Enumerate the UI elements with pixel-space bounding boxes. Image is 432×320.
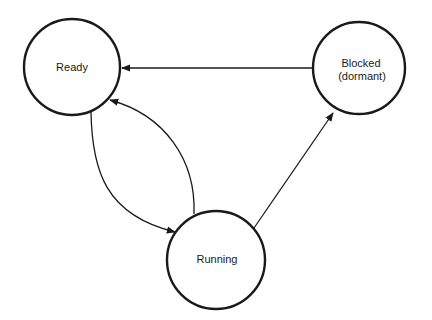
state-ready: Ready (24, 19, 120, 115)
edge-running-to-ready (110, 100, 194, 214)
state-diagram: Ready Blocked (dormant) Running (0, 0, 432, 320)
edge-running-to-blocked (254, 113, 333, 228)
state-blocked: Blocked (dormant) (313, 22, 405, 114)
state-blocked-sublabel: (dormant) (338, 70, 386, 82)
state-running-label: Running (197, 253, 238, 265)
state-blocked-label: Blocked (341, 57, 380, 69)
state-ready-label: Ready (56, 61, 88, 73)
state-running: Running (167, 211, 265, 309)
